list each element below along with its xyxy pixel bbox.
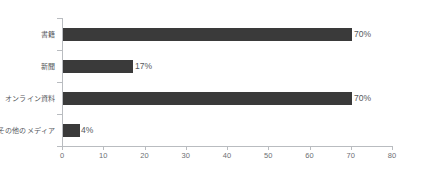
- x-axis-tick: [268, 146, 269, 150]
- x-axis-tick-label: 30: [182, 151, 190, 160]
- bar-value-books: 70%: [354, 29, 371, 39]
- y-axis-tick: [57, 50, 62, 51]
- x-axis-tick-label: 40: [223, 151, 231, 160]
- chart-screenshot: 0 10 20 30 40 50 60 70 80 書籍 新聞 オンライン資料 …: [0, 0, 423, 174]
- bar-newspaper: [63, 60, 133, 73]
- y-axis-tick: [57, 18, 62, 19]
- bar-books: [63, 28, 352, 41]
- x-axis-tick-label: 20: [140, 151, 148, 160]
- bar-value-newspaper: 17%: [135, 61, 152, 71]
- x-axis-tick: [227, 146, 228, 150]
- x-axis-tick: [392, 146, 393, 150]
- x-axis-tick: [310, 146, 311, 150]
- bar-other-media: [63, 124, 80, 137]
- category-label-online: オンライン資料: [5, 93, 55, 103]
- x-axis-tick-label: 70: [347, 151, 355, 160]
- plot-area: 0 10 20 30 40 50 60 70 80 書籍 新聞 オンライン資料 …: [0, 0, 423, 174]
- category-label-books: 書籍: [41, 29, 55, 39]
- x-axis-tick-label: 80: [388, 151, 396, 160]
- x-axis-tick-label: 50: [264, 151, 272, 160]
- bar-value-other-media: 4%: [81, 125, 93, 135]
- x-axis-tick-label: 0: [60, 151, 64, 160]
- y-axis-tick: [57, 82, 62, 83]
- x-axis-tick-label: 60: [305, 151, 313, 160]
- bar-online: [63, 92, 352, 105]
- category-label-other-media: その他のメディア: [0, 125, 55, 135]
- x-axis-tick: [62, 146, 63, 150]
- x-axis-tick: [103, 146, 104, 150]
- y-axis-tick: [57, 114, 62, 115]
- x-axis-tick: [351, 146, 352, 150]
- bar-value-online: 70%: [354, 93, 371, 103]
- x-axis-tick: [145, 146, 146, 150]
- x-axis-tick: [186, 146, 187, 150]
- category-label-newspaper: 新聞: [41, 61, 55, 71]
- x-axis-tick-label: 10: [99, 151, 107, 160]
